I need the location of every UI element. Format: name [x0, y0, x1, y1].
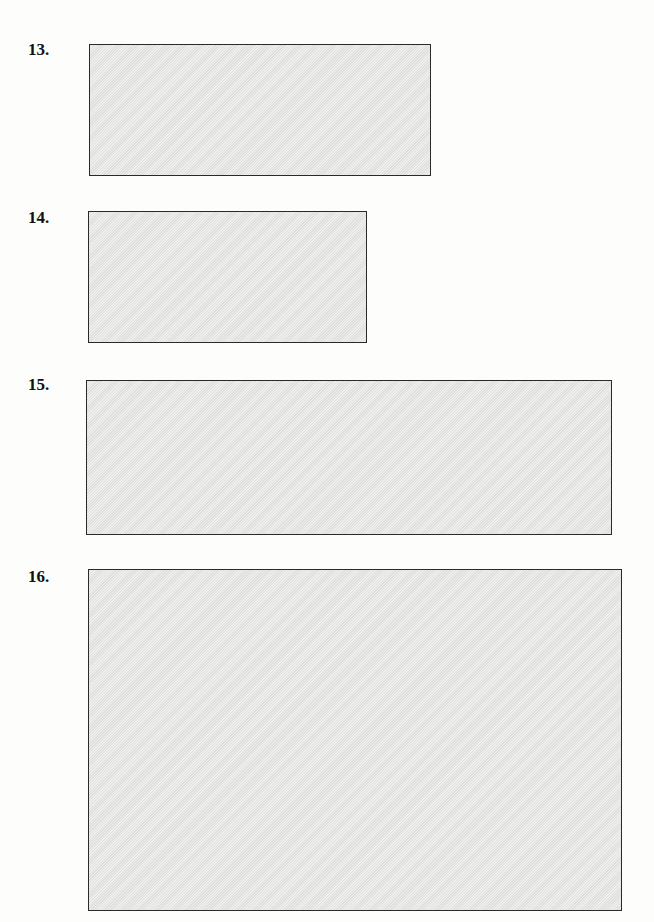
problem-number: 16. [28, 568, 49, 585]
problem-number: 13. [28, 41, 49, 58]
problem-number: 14. [28, 209, 49, 226]
figure-placeholder-box [86, 380, 612, 535]
problem-number: 15. [28, 376, 49, 393]
figure-placeholder-box [88, 211, 367, 343]
figure-placeholder-box [89, 44, 431, 176]
figure-placeholder-box [88, 569, 622, 911]
